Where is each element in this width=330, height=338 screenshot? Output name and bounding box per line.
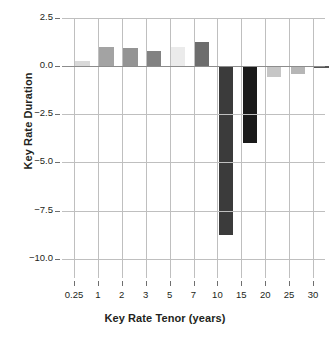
x-tick-label: 10 (212, 289, 223, 300)
y-tick-mark (55, 66, 60, 67)
bar (171, 47, 185, 66)
x-tick-mark (122, 281, 123, 286)
y-tick-label: 0.0 (40, 59, 53, 70)
bar (267, 66, 281, 77)
gridline-horizontal (62, 259, 325, 260)
x-tick-mark (265, 281, 266, 286)
bar (195, 42, 209, 66)
gridline-horizontal (62, 211, 325, 212)
x-tick-mark (98, 281, 99, 286)
bar (243, 66, 257, 143)
y-tick-label: −5.0 (34, 155, 53, 166)
plot-area: 0.25123571015202530 2.50.0−2.5−5.0−7.5−1… (62, 18, 325, 278)
bar (147, 51, 161, 66)
x-tick-label: 20 (260, 289, 271, 300)
x-tick-mark (194, 281, 195, 286)
bar (123, 48, 137, 66)
gridline-horizontal (62, 18, 325, 19)
y-axis-title: Key Rate Duration (22, 31, 34, 211)
x-tick-mark (146, 281, 147, 286)
x-tick-label: 5 (167, 289, 172, 300)
bar (99, 47, 113, 67)
y-tick-mark (55, 162, 60, 163)
y-tick-mark (55, 259, 60, 260)
key-rate-duration-chart: Key Rate Duration 0.25123571015202530 2.… (0, 0, 330, 338)
gridline-horizontal (62, 114, 325, 115)
x-tick-mark (289, 281, 290, 286)
bar (291, 66, 305, 74)
y-tick-mark (55, 114, 60, 115)
x-tick-label: 25 (284, 289, 295, 300)
x-tick-mark (74, 281, 75, 286)
x-tick-label: 0.25 (65, 289, 84, 300)
x-tick-label: 1 (95, 289, 100, 300)
bars-layer (62, 18, 325, 278)
x-tick-label: 3 (143, 289, 148, 300)
y-tick-label: −7.5 (34, 204, 53, 215)
x-tick-mark (170, 281, 171, 286)
x-axis-title: Key Rate Tenor (years) (0, 312, 330, 324)
gridline-horizontal (62, 162, 325, 163)
y-tick-mark (55, 211, 60, 212)
y-tick-mark (55, 18, 60, 19)
zero-gridline (62, 66, 325, 67)
x-tick-label: 2 (119, 289, 124, 300)
x-tick-mark (241, 281, 242, 286)
x-tick-label: 7 (191, 289, 196, 300)
y-tick-label: −2.5 (34, 107, 53, 118)
y-tick-label: 2.5 (40, 11, 53, 22)
x-tick-mark (217, 281, 218, 286)
x-tick-label: 15 (236, 289, 247, 300)
x-tick-mark (313, 281, 314, 286)
x-tick-label: 30 (308, 289, 319, 300)
y-tick-label: −10.0 (29, 252, 53, 263)
